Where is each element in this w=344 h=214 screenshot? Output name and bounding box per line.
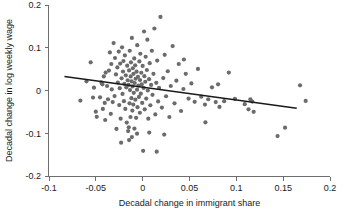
data-point <box>119 141 123 145</box>
data-point <box>89 60 93 64</box>
data-point <box>164 94 168 98</box>
data-point <box>92 86 96 90</box>
y-tick-label: -0.2 <box>25 171 41 181</box>
data-point <box>147 77 151 81</box>
data-point <box>138 52 142 56</box>
data-point <box>160 106 164 110</box>
data-point <box>186 97 190 101</box>
data-point <box>113 56 117 60</box>
data-point <box>106 97 110 101</box>
y-tick-label: 0 <box>36 86 41 96</box>
x-tick-label: 0.15 <box>274 183 292 193</box>
data-point <box>158 15 162 19</box>
data-points-layer <box>78 15 307 154</box>
x-tick-label: 0.2 <box>324 183 337 193</box>
data-point <box>145 68 149 72</box>
data-point <box>167 115 171 119</box>
data-point <box>127 101 131 105</box>
data-point <box>162 132 166 136</box>
data-point <box>118 86 122 90</box>
data-point <box>304 99 308 103</box>
data-point <box>153 112 157 116</box>
fit-line-layer <box>64 77 296 109</box>
data-point <box>130 108 134 112</box>
data-point <box>133 98 137 102</box>
data-point <box>184 72 188 76</box>
data-point <box>137 59 141 63</box>
data-point <box>145 38 149 42</box>
data-point <box>142 74 146 78</box>
data-point <box>95 115 99 119</box>
data-point <box>125 120 129 124</box>
data-point <box>135 132 139 136</box>
x-tick-label: 0.1 <box>230 183 243 193</box>
data-point <box>146 117 150 121</box>
data-point <box>109 62 113 66</box>
data-point <box>139 71 143 75</box>
data-point <box>114 127 118 131</box>
data-point <box>172 101 176 105</box>
data-point <box>130 135 134 139</box>
data-point <box>143 80 147 84</box>
data-point <box>150 49 154 53</box>
x-tick-label: 0 <box>140 183 145 193</box>
scatter-plot: -0.1-0.0500.050.10.150.2-0.2-0.100.10.2D… <box>0 0 344 214</box>
y-tick-label: 0.1 <box>28 43 41 53</box>
data-point <box>152 26 156 30</box>
data-point <box>117 50 121 54</box>
data-point <box>132 126 136 130</box>
data-point <box>177 62 181 66</box>
data-point <box>117 103 121 107</box>
data-point <box>125 64 129 68</box>
data-point <box>227 70 231 74</box>
data-point <box>203 120 207 124</box>
x-axis-title: Decadal change in immigrant share <box>119 198 261 208</box>
data-point <box>138 78 142 82</box>
data-point <box>135 105 139 109</box>
data-point <box>163 53 167 57</box>
data-point <box>143 107 147 111</box>
data-point <box>193 100 197 104</box>
data-point <box>210 85 214 89</box>
data-point <box>128 115 132 119</box>
x-tick-label: -0.05 <box>86 183 107 193</box>
data-point <box>243 102 247 106</box>
data-point <box>128 49 132 53</box>
data-point <box>182 57 186 61</box>
data-point <box>217 105 221 109</box>
data-point <box>171 44 175 48</box>
data-point <box>142 29 146 33</box>
data-point <box>149 83 153 87</box>
y-axis-title: Decadal change in log weekly wage <box>4 19 14 162</box>
data-point <box>112 94 116 98</box>
data-point <box>155 150 159 154</box>
data-point <box>91 95 95 99</box>
data-point <box>140 82 144 86</box>
data-point <box>132 56 136 60</box>
data-point <box>283 126 287 130</box>
data-point <box>128 88 132 92</box>
data-point <box>129 96 133 100</box>
data-point <box>112 41 116 45</box>
data-point <box>121 69 125 73</box>
data-point <box>114 72 118 76</box>
data-point <box>298 83 302 87</box>
x-tick-label: 0.05 <box>181 183 199 193</box>
y-tick-label: -0.1 <box>25 129 41 139</box>
data-point <box>98 95 102 99</box>
data-point <box>146 88 150 92</box>
data-point <box>252 110 256 114</box>
data-point <box>103 101 107 105</box>
data-point <box>246 107 250 111</box>
data-point <box>134 116 138 120</box>
data-point <box>110 87 114 91</box>
data-point <box>166 69 170 73</box>
data-point <box>123 53 127 57</box>
data-point <box>135 88 139 92</box>
data-point <box>275 134 279 138</box>
y-tick-label: 0.2 <box>28 0 41 10</box>
data-point <box>120 92 124 96</box>
data-point <box>108 50 112 54</box>
data-point <box>102 74 106 78</box>
data-point <box>127 68 131 72</box>
